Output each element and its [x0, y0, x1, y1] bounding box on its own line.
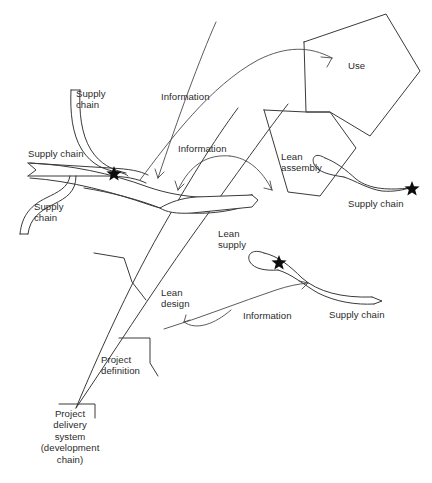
main-flow-band-upper — [30, 163, 252, 198]
information-middle-left-head — [175, 181, 184, 190]
label-information-middle: Information — [178, 143, 227, 154]
label-supply-chain-left: Supply chain — [28, 148, 84, 159]
label-supply-chain-bottom-right: Supply chain — [329, 309, 385, 320]
supply-chain-bottomright-notch — [372, 297, 382, 304]
diagram-canvas: Supply chain Supply chain Supply chain S… — [0, 0, 432, 483]
supply-chain-left-notch — [28, 163, 36, 176]
label-project-delivery-system: Project delivery system (development cha… — [22, 408, 118, 465]
information-middle-right-arrow — [230, 156, 272, 190]
label-information-bottom: Information — [243, 310, 292, 321]
label-supply-chain-top-left: Supply chain — [76, 88, 106, 111]
star-marker-bottom — [271, 255, 286, 270]
label-use: Use — [348, 60, 365, 71]
information-top-arrowhead — [321, 57, 332, 67]
label-project-definition: Project definition — [101, 354, 140, 377]
use-shape — [304, 14, 420, 136]
lean-design-shape — [94, 253, 146, 300]
supply-chain-left-band-top — [28, 163, 148, 175]
label-lean-supply: Lean supply — [218, 228, 246, 251]
supply-chain-right-taper-top — [325, 158, 410, 189]
information-middle-left-arrow — [178, 156, 230, 190]
lean-design-arrow — [184, 310, 231, 326]
label-supply-chain-bottom-left: Supply chain — [34, 201, 64, 224]
label-information-top: Information — [161, 91, 210, 102]
supply-chain-bottomright-band-bottom — [278, 270, 374, 304]
star-marker-right — [404, 181, 419, 196]
label-lean-assembly: Lean assembly — [281, 151, 322, 174]
lean-supply-band — [160, 195, 258, 213]
label-lean-design: Lean design — [161, 287, 190, 310]
label-supply-chain-right: Supply chain — [348, 198, 404, 209]
